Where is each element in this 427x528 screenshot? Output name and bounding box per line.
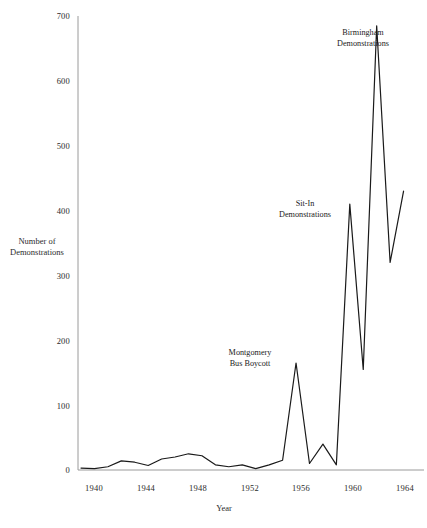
chart-figure: 700 600 500 400 300 200 100 0 Number of …: [0, 0, 427, 528]
data-series-line: [81, 26, 404, 469]
plot-area: [0, 0, 427, 528]
